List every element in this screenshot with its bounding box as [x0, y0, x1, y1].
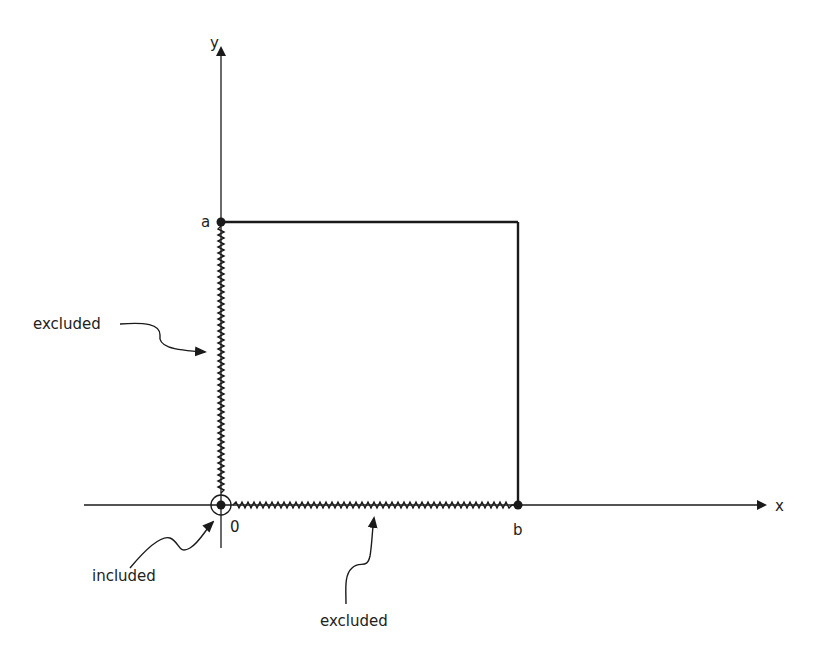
point-b	[514, 501, 523, 510]
left-excluded-arrow	[120, 323, 205, 352]
region-diagram: y x a b 0 excluded included excluded	[0, 0, 814, 655]
origin-included-arrow	[130, 522, 213, 568]
point-a	[217, 218, 226, 227]
y-axis-label: y	[210, 34, 219, 52]
bottom-edge-excluded-label: excluded	[320, 612, 388, 630]
point-b-label: b	[513, 521, 523, 539]
origin-point	[217, 501, 226, 510]
point-a-label: a	[201, 213, 210, 231]
bottom-excluded-arrow	[346, 518, 374, 604]
origin-included-label: included	[92, 567, 156, 585]
bottom-edge-excluded-zigzag	[233, 502, 518, 508]
origin-label: 0	[230, 518, 240, 536]
left-edge-excluded-zigzag	[218, 226, 224, 493]
left-edge-excluded-label: excluded	[33, 315, 101, 333]
x-axis-label: x	[775, 497, 784, 515]
